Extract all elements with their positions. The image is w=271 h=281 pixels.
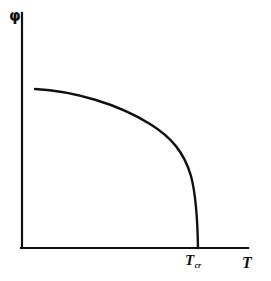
figure-container: φ T Tcr (0, 0, 271, 281)
plot-canvas (0, 0, 271, 281)
critical-temperature-symbol: T (185, 252, 194, 268)
y-axis-label: φ (9, 9, 21, 24)
critical-temperature-label: Tcr (185, 253, 200, 268)
x-axis-label: T (242, 255, 252, 271)
order-parameter-curve (35, 89, 198, 248)
critical-temperature-subscript: cr (195, 261, 201, 270)
